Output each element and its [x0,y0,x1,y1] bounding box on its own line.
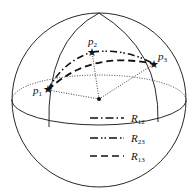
arc-R13 [48,60,154,90]
legend-label-R13: R13 [130,150,145,164]
star-p1-icon: ★ [43,83,53,95]
sphere-diagram: ★ ★ ★ p1 p2 p3 R12 R23 R13 [0,0,193,193]
radius-p3 [99,64,154,99]
radius-p1 [48,90,99,99]
legend-label-R23: R23 [130,132,145,146]
label-p3: p3 [157,50,168,64]
legend: R12 R23 R13 [90,112,145,164]
equator-front [12,100,186,125]
label-p2: p2 [87,35,98,49]
legend-label-R12: R12 [130,112,145,126]
center-dot [97,97,101,101]
meridian-left [49,13,99,127]
label-p1: p1 [32,84,43,98]
radius-p2 [92,52,99,99]
